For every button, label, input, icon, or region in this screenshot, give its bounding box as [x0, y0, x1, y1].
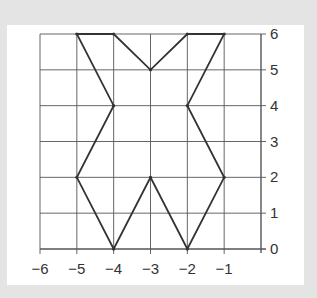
x-tick-label: −1: [216, 260, 233, 277]
vertex-point: [112, 104, 115, 107]
x-tick-label: −6: [31, 260, 48, 277]
x-tick-label: −4: [105, 260, 122, 277]
vertex-point: [186, 104, 189, 107]
vertex-point: [75, 176, 78, 179]
x-tick-label: −3: [142, 260, 159, 277]
y-tick-label: 3: [270, 133, 278, 150]
vertex-point: [75, 32, 78, 35]
coordinate-grid: −6−5−4−3−2−10123456: [0, 0, 317, 298]
x-tick-label: −5: [68, 260, 85, 277]
vertex-point: [186, 247, 189, 250]
y-tick-label: 2: [270, 168, 278, 185]
vertex-point: [223, 176, 226, 179]
y-tick-label: 1: [270, 204, 278, 221]
vertex-point: [223, 32, 226, 35]
vertex-point: [112, 32, 115, 35]
vertex-point: [149, 68, 152, 71]
y-tick-label: 5: [270, 61, 278, 78]
vertex-point: [112, 247, 115, 250]
vertex-point: [186, 32, 189, 35]
y-tick-label: 0: [270, 240, 278, 257]
y-tick-label: 4: [270, 97, 278, 114]
x-tick-label: −2: [179, 260, 196, 277]
y-tick-label: 6: [270, 25, 278, 42]
vertex-point: [149, 176, 152, 179]
